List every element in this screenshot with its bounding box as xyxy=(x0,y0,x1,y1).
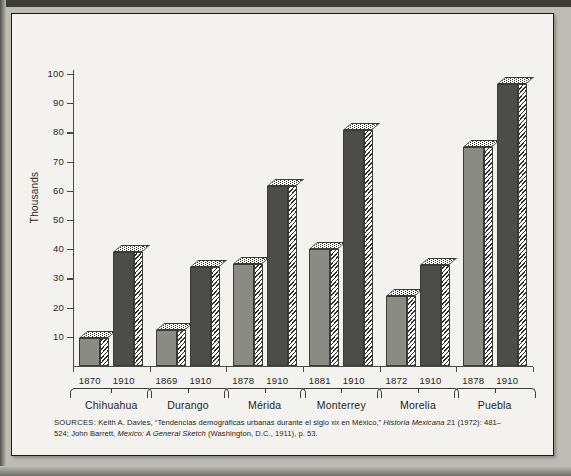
bar-side-face xyxy=(441,265,450,366)
x-axis-year-label: 1910 xyxy=(412,375,449,386)
group-brace-nib xyxy=(418,388,419,393)
city-group-label: Durango xyxy=(150,399,227,411)
bar-top-face xyxy=(267,179,304,186)
bar-top-face xyxy=(497,77,534,84)
scan-edge-left xyxy=(0,0,6,476)
x-axis-year-label: 1910 xyxy=(259,375,296,386)
x-axis-year-label: 1910 xyxy=(182,375,219,386)
scanned-page: Thousands 102030405060708090100 18701910… xyxy=(0,0,571,476)
x-axis-tick xyxy=(150,367,151,372)
bar xyxy=(156,330,177,367)
group-brace xyxy=(377,388,459,398)
bar-front-face xyxy=(386,296,407,366)
bar-top-face xyxy=(156,323,193,330)
group-brace xyxy=(454,388,536,398)
bar-front-face xyxy=(79,338,100,366)
bar xyxy=(190,267,211,366)
bar-side-face xyxy=(364,130,373,367)
group-brace xyxy=(147,388,229,398)
city-group-label: Monterrey xyxy=(303,399,380,411)
bar-front-face xyxy=(309,249,330,366)
bar-top-face xyxy=(309,242,346,249)
bar-top-face xyxy=(190,260,227,267)
bar-front-face xyxy=(497,84,518,366)
bar-top-face xyxy=(463,140,500,147)
bar-top-face xyxy=(113,245,150,252)
bar-front-face xyxy=(267,186,288,366)
source-note-text-b: en México,” xyxy=(339,418,383,427)
bar-top-face xyxy=(420,258,457,265)
x-axis-tick xyxy=(380,367,381,372)
city-group-label: Mérida xyxy=(226,399,303,411)
x-axis-tick xyxy=(226,367,227,372)
source-note-journal-1: Historia xyxy=(383,418,409,427)
bar-front-face xyxy=(343,130,364,367)
x-axis-year-label: 1869 xyxy=(148,375,185,386)
group-brace-nib xyxy=(341,388,342,393)
bar-front-face xyxy=(420,265,441,366)
group-brace xyxy=(70,388,152,398)
group-brace-nib xyxy=(495,388,496,393)
bar-side-face xyxy=(100,338,109,366)
bar xyxy=(420,265,441,366)
bar-side-face xyxy=(211,267,220,366)
source-note-lead: SOURCES: xyxy=(54,418,96,427)
group-brace xyxy=(224,388,306,398)
bar-front-face xyxy=(113,252,134,366)
bar xyxy=(497,84,518,366)
bar xyxy=(309,249,330,366)
bar xyxy=(113,252,134,366)
x-axis-tick xyxy=(533,367,534,372)
bar-side-face xyxy=(288,186,297,366)
bar-side-face xyxy=(518,84,527,366)
bar-side-face xyxy=(177,330,186,367)
figure-card: Thousands 102030405060708090100 18701910… xyxy=(11,13,554,456)
bar-front-face xyxy=(190,267,211,366)
group-brace-nib xyxy=(265,388,266,393)
x-axis-year-label: 1910 xyxy=(489,375,526,386)
bar-front-face xyxy=(156,330,177,367)
source-note: SOURCES: Keith A. Davies, “Tendencias de… xyxy=(54,418,509,439)
bar xyxy=(386,296,407,366)
bar-side-face xyxy=(407,296,416,366)
bar-front-face xyxy=(233,264,254,366)
bar-top-face xyxy=(233,257,270,264)
group-brace-nib xyxy=(111,388,112,393)
x-axis-year-label: 1910 xyxy=(335,375,372,386)
scan-edge-top xyxy=(0,0,571,7)
bar-side-face xyxy=(484,147,493,366)
x-axis-tick xyxy=(456,367,457,372)
x-axis-year-label: 1881 xyxy=(301,375,338,386)
bar-chart: Thousands 102030405060708090100 18701910… xyxy=(12,14,552,454)
bar xyxy=(79,338,100,366)
scan-edge-bottom xyxy=(0,466,571,476)
bar-top-face xyxy=(343,123,380,130)
x-axis-year-label: 1910 xyxy=(105,375,142,386)
bar xyxy=(233,264,254,366)
bar-top-face xyxy=(386,289,423,296)
bar-side-face xyxy=(254,264,263,366)
source-note-journal-2: Mexicana xyxy=(412,418,445,427)
x-axis-year-label: 1878 xyxy=(225,375,262,386)
bar-side-face xyxy=(330,249,339,366)
city-group-label: Puebla xyxy=(456,399,533,411)
x-axis-year-label: 1872 xyxy=(378,375,415,386)
bar xyxy=(463,147,484,366)
bar-front-face xyxy=(463,147,484,366)
source-note-smallcaps: xix xyxy=(331,419,339,426)
source-note-book-title: Mexico: A General Sketch xyxy=(117,429,205,438)
x-axis-year-label: 1878 xyxy=(455,375,492,386)
x-axis-tick xyxy=(73,367,74,372)
x-axis-year-label: 1870 xyxy=(71,375,108,386)
group-brace xyxy=(300,388,382,398)
bar xyxy=(267,186,288,366)
source-note-text-d: (Washington, D.C., 1911), p. 53. xyxy=(206,429,318,438)
bar xyxy=(343,130,364,367)
city-group-label: Morelia xyxy=(380,399,457,411)
group-brace-nib xyxy=(188,388,189,393)
bar-top-face xyxy=(79,331,116,338)
city-group-label: Chihuahua xyxy=(73,399,150,411)
x-axis-tick xyxy=(303,367,304,372)
source-note-text-a: Keith A. Davies, “Tendencias demográfica… xyxy=(96,418,331,427)
bar-side-face xyxy=(134,252,143,366)
